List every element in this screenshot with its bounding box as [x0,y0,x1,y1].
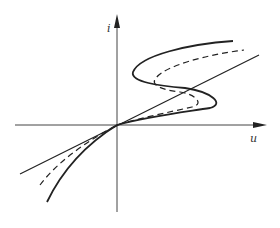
linear-curve [20,55,259,174]
x-axis-arrow-icon [253,122,267,128]
y-axis-arrow-icon [114,14,120,28]
y-axis-label: i [107,22,111,35]
iu-diagram [0,0,280,228]
x-axis-label: u [250,132,257,145]
s-curve-strong [47,41,233,202]
